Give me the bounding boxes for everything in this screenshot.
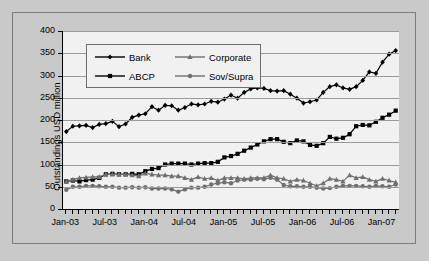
data-point-marker: [321, 180, 326, 185]
x-axis-tick-mark: [296, 210, 297, 214]
x-axis-tick-mark: [164, 210, 165, 214]
data-point-marker: [242, 149, 246, 153]
x-axis-tick-mark: [388, 210, 389, 214]
x-axis-tick-mark: [92, 210, 93, 214]
x-axis-tick-mark: [197, 210, 198, 214]
data-point-marker: [249, 145, 253, 149]
x-axis-tick-mark: [382, 210, 383, 214]
legend-row-1b: Corporate: [175, 48, 257, 66]
data-point-marker: [209, 99, 214, 104]
data-point-marker: [195, 174, 200, 179]
legend-row-2: ABCP: [95, 67, 161, 85]
chart-plot-wrapper: Outstandings USD million 050100150200250…: [13, 13, 417, 245]
x-axis-tick-mark: [204, 210, 205, 214]
data-point-marker: [268, 137, 272, 141]
x-axis-tick-mark: [151, 210, 152, 214]
data-point-marker: [169, 103, 174, 108]
x-axis-tick-mark: [65, 210, 66, 214]
chart-figure: Outstandings USD million 050100150200250…: [12, 12, 416, 244]
data-point-marker: [216, 181, 220, 185]
y-axis-tick-label: 300: [15, 71, 55, 80]
legend-entry-bank: Bank: [95, 52, 151, 63]
x-axis-tick-label: Jan-06: [289, 217, 317, 227]
x-axis-tick-mark: [329, 210, 330, 214]
gridline: [63, 142, 399, 143]
gridline: [63, 165, 399, 166]
data-point-marker: [104, 121, 109, 126]
data-point-marker: [189, 101, 194, 106]
x-axis-tick-mark: [289, 210, 290, 214]
data-point-marker: [97, 122, 102, 127]
x-axis-tick-mark: [375, 210, 376, 214]
data-point-marker: [156, 166, 160, 170]
data-point-marker: [235, 152, 239, 156]
gridline: [63, 98, 399, 99]
legend-entry-corporate: Corporate: [175, 52, 251, 63]
data-point-marker: [347, 132, 351, 136]
x-axis-tick-mark: [210, 210, 211, 214]
data-point-marker: [347, 172, 352, 177]
x-axis-tick-mark: [171, 210, 172, 214]
data-point-marker: [222, 155, 226, 159]
x-axis-tick-mark: [355, 210, 356, 214]
data-point-marker: [341, 136, 345, 140]
data-point-marker: [334, 137, 338, 141]
y-axis-tick-label: 50: [15, 182, 55, 191]
x-axis-tick-mark: [85, 210, 86, 214]
data-point-marker: [150, 167, 154, 171]
x-axis-tick-mark: [250, 210, 251, 214]
data-point-marker: [136, 113, 141, 118]
data-point-marker: [216, 160, 220, 164]
x-axis-tick-mark: [78, 210, 79, 214]
x-axis-tick-mark: [230, 210, 231, 214]
data-point-marker: [308, 99, 313, 104]
chart-legend: Bank Corporate ABCP Sov/Supra: [86, 44, 261, 88]
y-axis-tick-label: 350: [15, 48, 55, 57]
x-axis-tick-mark: [184, 210, 185, 214]
gridline: [63, 120, 399, 121]
legend-row-2b: Sov/Supra: [175, 67, 259, 85]
data-point-marker: [235, 178, 239, 182]
x-axis-tick-mark: [237, 210, 238, 214]
x-axis-tick-mark: [111, 210, 112, 214]
data-point-marker: [84, 123, 89, 128]
x-axis-tick-mark: [349, 210, 350, 214]
x-axis-tick-mark: [177, 210, 178, 214]
legend-marker-circle-icon: [175, 71, 205, 81]
x-axis-tick-label: Jul-03: [93, 217, 118, 227]
y-axis-tick-label: 150: [15, 137, 55, 146]
data-point-marker: [176, 108, 181, 113]
x-axis-tick-label: Jan-07: [368, 217, 396, 227]
gridline: [63, 187, 399, 188]
y-axis-tick-labels: 050100150200250300350400: [13, 13, 58, 245]
x-axis-tick-mark: [144, 210, 145, 214]
x-axis-tick-mark: [283, 210, 284, 214]
x-axis-tick-mark: [342, 210, 343, 214]
legend-label-abcp: ABCP: [129, 71, 155, 82]
data-point-marker: [242, 177, 246, 181]
data-point-marker: [341, 85, 346, 90]
data-point-marker: [202, 101, 207, 106]
y-axis-tick-label: 100: [15, 160, 55, 169]
data-point-marker: [249, 177, 253, 181]
x-axis-tick-label: Jul-05: [251, 217, 276, 227]
data-point-marker: [361, 123, 365, 127]
legend-label-sovsupra: Sov/Supra: [209, 71, 253, 82]
x-axis-tick-mark: [72, 210, 73, 214]
data-point-marker: [229, 92, 234, 97]
data-point-marker: [255, 177, 259, 181]
data-point-marker: [275, 88, 280, 93]
data-point-marker: [268, 176, 272, 180]
data-point-marker: [380, 176, 385, 181]
x-axis-tick-mark: [335, 210, 336, 214]
data-point-marker: [229, 154, 233, 158]
data-point-marker: [354, 124, 358, 128]
x-axis-tick-mark: [98, 210, 99, 214]
data-point-marker: [394, 109, 398, 113]
y-axis-tick-label: 0: [15, 204, 55, 213]
legend-label-bank: Bank: [129, 52, 151, 63]
legend-row-1: Bank: [95, 48, 157, 66]
x-axis-tick-label: Jan-04: [131, 217, 159, 227]
data-point-marker: [229, 181, 233, 185]
data-point-marker: [275, 137, 279, 141]
